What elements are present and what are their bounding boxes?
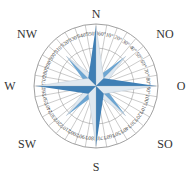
label-southeast: SO: [157, 137, 172, 152]
label-south: S: [93, 160, 100, 175]
degree-label: 70°: [143, 68, 151, 77]
degree-label: 80°: [145, 77, 152, 85]
degree-label: 10°: [105, 31, 114, 39]
label-west: W: [4, 79, 15, 94]
degree-label: 60°: [139, 59, 148, 69]
label-east: O: [177, 79, 186, 94]
label-northeast: NO: [156, 27, 173, 42]
label-north: N: [92, 7, 101, 22]
label-northwest: NW: [17, 27, 37, 42]
label-southwest: SW: [18, 137, 36, 152]
